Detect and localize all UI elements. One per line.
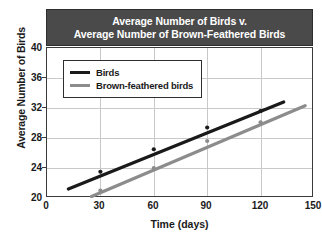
- x-tick-label-30: 30: [84, 200, 114, 211]
- chart-title-line-1: Average Number of Birds v.: [112, 15, 247, 28]
- data-point: [152, 166, 156, 170]
- birds-markers: [98, 109, 262, 174]
- y-tick-label-36: 36: [16, 72, 42, 83]
- chart-title-line-2: Average Number of Brown-Feathered Birds: [74, 28, 286, 41]
- legend-label-birds: Birds: [96, 67, 119, 78]
- x-tick-label-0: 0: [31, 200, 61, 211]
- data-point: [259, 109, 263, 113]
- y-tick-label-40: 40: [16, 42, 42, 53]
- legend-swatch-brown-feathered-birds: [70, 84, 90, 88]
- x-tick-label-150: 150: [298, 200, 322, 211]
- data-point: [205, 139, 209, 143]
- y-tick-label-28: 28: [16, 132, 42, 143]
- legend-item-birds: Birds: [70, 66, 193, 79]
- legend-item-brown-feathered-birds: Brown-feathered birds: [70, 79, 193, 92]
- brown-trend-line: [92, 106, 306, 197]
- y-tick-label-32: 32: [16, 102, 42, 113]
- legend-label-brown-feathered-birds: Brown-feathered birds: [96, 80, 193, 91]
- plot-area: Birds Brown-feathered birds: [46, 47, 313, 197]
- chart-legend: Birds Brown-feathered birds: [63, 60, 202, 98]
- series-brown-feathered-birds: [92, 106, 306, 197]
- y-axis-label: Average Number of Birds: [15, 8, 31, 168]
- x-tick-label-90: 90: [191, 200, 221, 211]
- data-point: [152, 147, 156, 151]
- x-tick-label-120: 120: [245, 200, 275, 211]
- x-tick-label-60: 60: [138, 200, 168, 211]
- data-point: [259, 120, 263, 124]
- legend-swatch-birds: [70, 71, 90, 75]
- chart-title-banner: Average Number of Birds v. Average Numbe…: [46, 9, 313, 46]
- data-point: [98, 188, 102, 192]
- chart-figure: Average Number of Birds v. Average Numbe…: [0, 0, 322, 240]
- data-point: [205, 125, 209, 129]
- y-tick-label-24: 24: [16, 162, 42, 173]
- birds-trend-line: [68, 102, 283, 189]
- data-point: [98, 170, 102, 174]
- x-axis-label: Time (days): [46, 218, 313, 230]
- series-birds: [68, 102, 283, 189]
